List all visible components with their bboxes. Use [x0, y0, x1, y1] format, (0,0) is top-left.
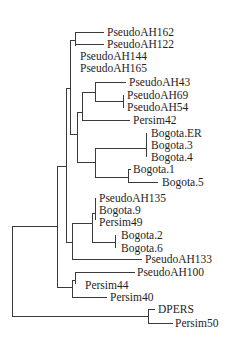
tip-label: PseudoAH54 [127, 101, 189, 113]
tip-label: Bogota.5 [162, 176, 204, 189]
tip-label: Persim44 [85, 279, 129, 291]
tip-label: PseudoAH144 [80, 50, 147, 62]
tip-label: PseudoAH133 [145, 253, 212, 265]
tip-label: Bogota.1 [133, 163, 175, 176]
tip-label: Persim49 [99, 216, 143, 228]
tip-label: PseudoAH69 [127, 89, 189, 101]
tip-label: Persim42 [133, 114, 177, 126]
tip-label: PseudoAH135 [99, 192, 166, 204]
tip-label: PseudoAH165 [80, 62, 147, 74]
tip-label: DPERS [158, 303, 194, 315]
tip-label: Bogota.2 [121, 229, 163, 242]
tip-label: PseudoAH43 [129, 76, 191, 88]
tip-label: Persim40 [110, 291, 154, 303]
tip-label: PseudoAH122 [107, 38, 174, 50]
tip-label: PseudoAH162 [107, 26, 174, 38]
phylogenetic-tree: PseudoAH162 PseudoAH122 PseudoAH144 Pseu… [0, 0, 226, 340]
tip-label: Persim50 [175, 317, 219, 329]
tip-label: PseudoAH100 [137, 266, 204, 278]
